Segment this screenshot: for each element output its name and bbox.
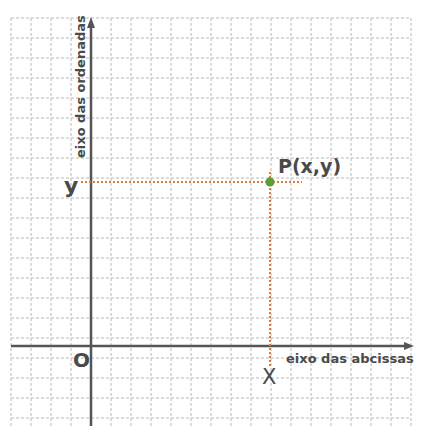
y-axis-arrow-icon bbox=[87, 17, 95, 28]
y-coordinate-label: y bbox=[64, 173, 78, 198]
y-axis-label: eixo das ordenadas bbox=[73, 15, 88, 158]
point-p bbox=[266, 178, 275, 187]
origin-label: O bbox=[73, 348, 90, 372]
x-coordinate-label: X bbox=[262, 365, 276, 389]
x-axis-label: eixo das abcissas bbox=[286, 351, 414, 366]
point-label: P(x,y) bbox=[278, 155, 341, 177]
x-axis-arrow-icon bbox=[404, 342, 414, 350]
cartesian-plane: P(x,y) y X O eixo das abcissas eixo das … bbox=[0, 0, 421, 426]
